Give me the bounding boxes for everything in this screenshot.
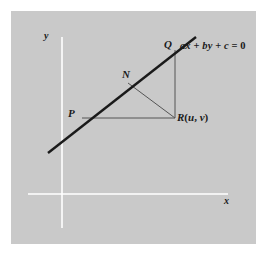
eq-equals: = bbox=[231, 40, 237, 51]
point-r-close-paren: ) bbox=[205, 111, 209, 123]
x-axis-label: x bbox=[224, 196, 229, 206]
point-label-r: R(u, v) bbox=[177, 112, 208, 123]
eq-plus-1: + bbox=[193, 40, 199, 51]
eq-y: y bbox=[208, 40, 213, 51]
point-label-p: P bbox=[68, 108, 75, 119]
eq-plus-2: + bbox=[215, 40, 221, 51]
point-label-n: N bbox=[122, 69, 130, 80]
eq-x: x bbox=[185, 40, 190, 51]
eq-c: c bbox=[224, 40, 229, 51]
eq-zero: 0 bbox=[240, 40, 245, 51]
line-equation-label: ax + by + c = 0 bbox=[180, 41, 246, 52]
segment-NR bbox=[128, 83, 175, 118]
point-label-q: Q bbox=[164, 39, 172, 50]
y-axis-label: y bbox=[44, 31, 48, 41]
figure-container: y x P Q N R(u, v) ax + by + c = 0 bbox=[0, 0, 274, 261]
point-r-comma: , bbox=[194, 111, 197, 123]
line-ax-by-c bbox=[48, 37, 196, 153]
